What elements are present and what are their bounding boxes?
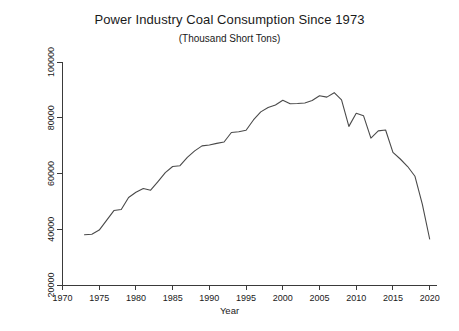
- data-series-line: [85, 93, 430, 239]
- chart-container: Power Industry Coal Consumption Since 19…: [0, 0, 459, 331]
- x-tick-label: 1980: [126, 293, 146, 303]
- x-tick-label: 2005: [309, 293, 329, 303]
- y-tick-label: 40000: [46, 217, 56, 242]
- x-tick-group: 1970197519801985199019952000200520102015…: [52, 285, 439, 303]
- x-tick-label: 1985: [163, 293, 183, 303]
- x-tick-label: 1990: [199, 293, 219, 303]
- x-tick-label: 1975: [89, 293, 109, 303]
- x-axis: 1970197519801985199019952000200520102015…: [52, 285, 439, 303]
- plot-area: 20000400006000080000100000 1970197519801…: [0, 0, 459, 331]
- y-axis: 20000400006000080000100000: [46, 47, 62, 298]
- y-tick-label: 80000: [46, 105, 56, 130]
- x-tick-label: 1995: [236, 293, 256, 303]
- x-tick-label: 1970: [52, 293, 72, 303]
- y-tick-group: 20000400006000080000100000: [46, 47, 62, 298]
- x-tick-label: 2020: [420, 293, 440, 303]
- x-tick-label: 2010: [346, 293, 366, 303]
- x-tick-label: 2015: [383, 293, 403, 303]
- y-tick-label: 100000: [46, 47, 56, 77]
- x-tick-label: 2000: [273, 293, 293, 303]
- y-tick-label: 60000: [46, 161, 56, 186]
